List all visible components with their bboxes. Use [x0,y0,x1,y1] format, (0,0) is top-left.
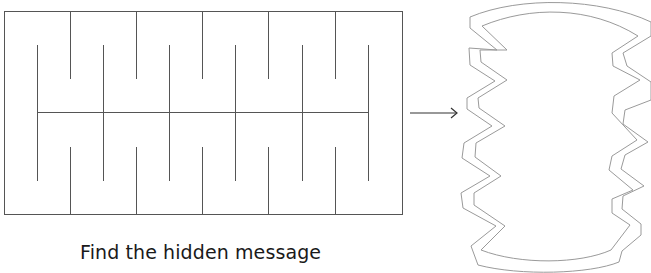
folded-ring-shape [461,3,651,273]
instruction-caption: Find the hidden message [80,241,321,263]
top-edge-cuts [71,11,336,79]
cut-pattern-diagram [5,11,403,215]
puzzle-figure [0,0,651,273]
bottom-edge-cuts [71,147,336,214]
right-arrow-icon [410,108,457,118]
ring-outer-outline [461,3,651,273]
ring-inner-outline [474,12,640,261]
